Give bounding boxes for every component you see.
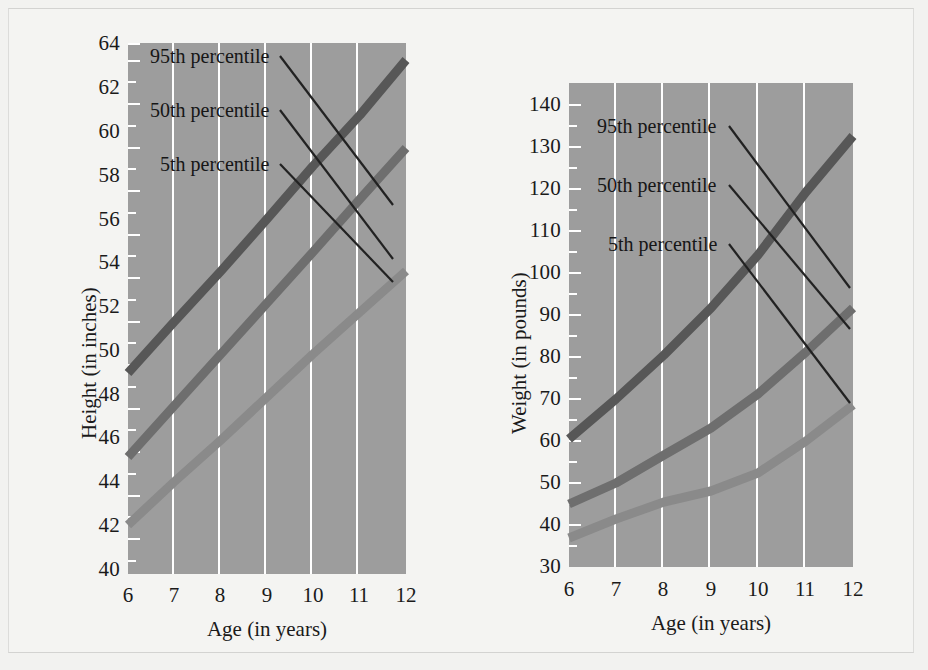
height-series-lines [128,43,406,574]
xtick-label: 8 [643,579,683,600]
ytick-label: 56 [68,209,120,230]
height-chart-panel: 95th percentile 50th percentile 5th perc… [9,9,461,654]
ytick-label: 120 [497,178,561,199]
ytick-label: 110 [497,220,561,241]
series-label-95th: 95th percentile [597,116,716,136]
xtick-label: 7 [154,585,194,606]
series-label-95th: 95th percentile [150,46,269,66]
xtick-label: 11 [785,579,825,600]
xtick-label: 6 [108,585,148,606]
ytick-label: 130 [497,136,561,157]
xtick-label: 11 [339,585,379,606]
ytick-label: 140 [497,94,561,115]
weight-chart-panel: 95th percentile 50th percentile 5th perc… [461,9,913,654]
ytick-label: 42 [68,515,120,536]
weight-plot-area: 95th percentile 50th percentile 5th perc… [569,83,853,567]
xtick-label: 10 [293,585,333,606]
y-axis-title: Height (in inches) [77,287,102,439]
x-axis-title: Age (in years) [128,617,406,642]
xtick-label: 12 [833,579,873,600]
xtick-label: 9 [247,585,287,606]
ytick-label: 58 [68,165,120,186]
ytick-label: 30 [497,556,561,577]
xtick-label: 10 [738,579,778,600]
ytick-label: 40 [497,514,561,535]
ytick-label: 64 [68,33,120,54]
series-label-50th: 50th percentile [150,100,269,120]
xtick-label: 7 [596,579,636,600]
series-label-5th: 5th percentile [608,234,717,254]
xtick-label: 9 [691,579,731,600]
xtick-label: 6 [549,579,589,600]
weight-series-lines [569,83,853,567]
figure-frame: 95th percentile 50th percentile 5th perc… [8,8,914,653]
ytick-label: 50 [497,472,561,493]
ytick-label: 54 [68,252,120,273]
ytick-label: 40 [68,559,120,580]
y-axis-title: Weight (in pounds) [507,272,532,434]
height-plot-area: 95th percentile 50th percentile 5th perc… [128,43,406,574]
ytick-label: 60 [68,121,120,142]
ytick-label: 44 [68,471,120,492]
x-axis-title: Age (in years) [569,611,853,636]
series-label-5th: 5th percentile [160,154,269,174]
xtick-label: 12 [386,585,426,606]
series-label-50th: 50th percentile [597,175,716,195]
ytick-label: 62 [68,77,120,98]
xtick-label: 8 [200,585,240,606]
